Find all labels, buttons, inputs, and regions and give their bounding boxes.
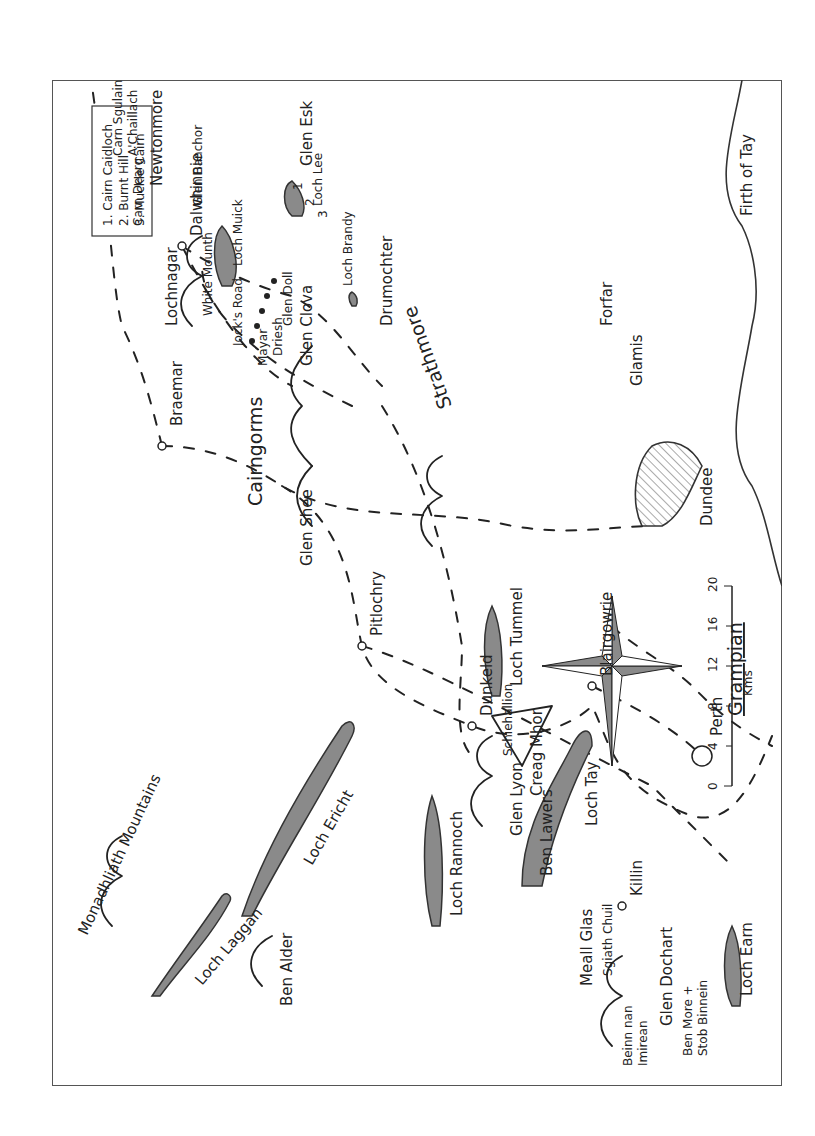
- town-marker-blairgowrie: [588, 682, 596, 690]
- label-jocks-road: Jock's Road: [231, 278, 245, 347]
- labels: Strathmore Monadhliath Mountains Cairngo…: [74, 80, 756, 1066]
- label-blairgowrie: Blairgowrie: [598, 592, 616, 676]
- label-loch-tummel: Loch Tummel: [508, 587, 526, 686]
- label-loch-earn: Loch Earn: [738, 922, 756, 996]
- label-beinn-nan: Beinn nan: [621, 1005, 635, 1066]
- label-firth-of-tay: Firth of Tay: [738, 134, 756, 216]
- label-mountain-3: 3: [316, 210, 330, 218]
- label-dunkeld: Dunkeld: [478, 654, 496, 716]
- label-meall-glas: Meall Glas: [578, 909, 596, 986]
- scale-tick-8: 8: [706, 702, 720, 710]
- label-glen-banchor: Glen Banchor: [191, 125, 205, 206]
- map-content: Strathmore Monadhliath Mountains Cairngo…: [52, 80, 782, 1086]
- town-marker-dunkeld: [468, 722, 476, 730]
- label-newtonmore: Newtonmore: [148, 90, 166, 186]
- label-glamis: Glamis: [628, 334, 646, 386]
- town-marker-braemar: [158, 442, 166, 450]
- label-dundee: Dundee: [698, 467, 716, 526]
- region-strathmore: Strathmore: [398, 303, 456, 412]
- label-loch-rannoch: Loch Rannoch: [448, 811, 466, 916]
- label-schiehallion: Schiehallion: [501, 684, 515, 756]
- label-lochnagar: Lochnagar: [163, 247, 181, 326]
- loch-rannoch: [425, 796, 443, 926]
- loch-brandy: [349, 292, 357, 306]
- map-title: Grampian: [724, 622, 746, 716]
- label-loch-brandy: Loch Brandy: [341, 211, 355, 286]
- label-glen-clova: Glen Clova: [298, 285, 316, 366]
- legend-item-1: 1. Cairn Caidloch: [101, 124, 115, 226]
- label-imirean: Imirean: [636, 1020, 650, 1066]
- region-cairngorms: Cairngorms: [244, 397, 266, 506]
- label-sgiath-chuil: Sgiath Chuil: [601, 904, 615, 976]
- label-white-mounth: White Mounth: [201, 232, 215, 316]
- label-ben-more: Ben More +: [681, 985, 695, 1056]
- label-mountain-2: 2: [303, 198, 317, 206]
- scale-tick-20: 20: [706, 577, 720, 592]
- scale-unit: Kms: [741, 670, 755, 696]
- label-ben-lawers: Ben Lawers: [538, 789, 556, 876]
- legend-item-2: 2. Burnt Hill: [117, 155, 131, 226]
- label-mayar: Mayar: [256, 329, 270, 366]
- label-glen-dochart: Glen Dochart: [658, 927, 676, 1026]
- label-ben-alder: Ben Alder: [278, 932, 296, 1006]
- region-monadhliath: Monadhliath Mountains: [74, 771, 164, 938]
- road-braemar-glenclova: [162, 446, 652, 530]
- scale-tick-4: 4: [706, 742, 720, 750]
- scale-tick-12: 12: [706, 657, 720, 672]
- label-braemar: Braemar: [168, 360, 186, 426]
- label-glen-lyon: Glen Lyon: [508, 762, 526, 836]
- label-creag-mhor: Creag Mhor: [528, 708, 546, 796]
- drumochter-hills: [421, 456, 442, 546]
- ben-alder-hills: [251, 936, 272, 986]
- label-loch-muick: Loch Muick: [231, 199, 245, 266]
- label-mountain-1: 1: [291, 182, 305, 190]
- label-pitlochry: Pitlochry: [368, 571, 386, 636]
- label-driesh: Driesh: [271, 317, 285, 356]
- label-stob-binnein: Stob Binnein: [696, 980, 710, 1056]
- town-marker-killin: [618, 902, 626, 910]
- label-glen-shee: Glen Shee: [298, 489, 316, 566]
- map-drawing: Strathmore Monadhliath Mountains Cairngo…: [52, 80, 782, 1086]
- glen-lyon-hills: [471, 736, 492, 826]
- road-a9: [382, 406, 472, 756]
- scale-tick-16: 16: [706, 617, 720, 632]
- road-glen-shee: [282, 486, 772, 818]
- label-killin: Killin: [628, 860, 646, 896]
- scale-tick-0: 0: [706, 782, 720, 790]
- legend-item-3: 3. Muckle Cairn: [133, 133, 147, 226]
- dundee-area: [635, 442, 702, 526]
- label-forfar: Forfar: [598, 281, 616, 326]
- label-loch-tay: Loch Tay: [583, 761, 601, 826]
- town-marker-pitlochry: [358, 642, 366, 650]
- label-drumochter: Drumochter: [378, 235, 396, 326]
